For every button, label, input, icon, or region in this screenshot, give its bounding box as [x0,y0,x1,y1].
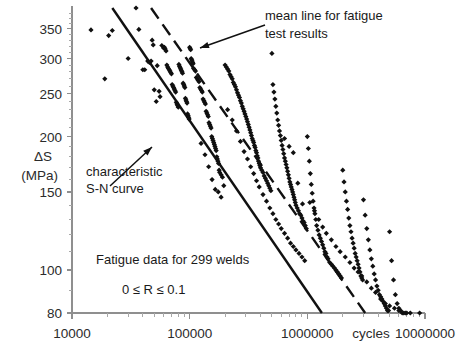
data-point [209,177,214,182]
data-point [281,151,286,156]
data-point [287,144,292,149]
data-point [391,277,396,282]
data-point [299,254,304,259]
data-point [361,197,366,202]
data-point [370,264,375,269]
y-tick-label: 200 [39,130,62,145]
data-point [241,149,246,154]
data-point [230,117,235,122]
data-point [157,94,162,99]
data-point [150,38,155,43]
data-point [269,51,274,56]
data-point [392,306,397,311]
data-point [315,228,320,233]
data-point [417,310,422,315]
data-point [270,211,275,216]
data-point [333,244,338,249]
data-point [88,27,93,32]
data-point [126,56,131,61]
data-point [155,63,160,68]
data-point [343,189,348,194]
data-point [367,247,372,252]
chart-svg: 8010015020025030035010000100000100000010… [0,0,459,350]
data-point [389,258,394,263]
data-point [133,5,138,10]
data-point [157,89,162,94]
data-point [245,156,250,161]
data-point [202,152,207,157]
data-point [264,199,269,204]
data-point [219,195,224,200]
data-point [152,87,157,92]
x-tick-label: 100000 [167,326,212,341]
data-point [387,229,392,234]
data-point [408,310,413,315]
data-point [316,217,321,222]
data-point [355,258,360,263]
data-point [395,301,400,306]
data-point [366,237,371,242]
data-point [154,99,159,104]
data-point [305,134,310,139]
sample-count-note: Fatigue data for 299 welds [96,252,250,267]
data-point [346,215,351,220]
mean-line-leader [200,25,265,48]
data-point [307,159,312,164]
data-point [276,123,281,128]
data-point [393,292,398,297]
data-point [151,42,156,47]
data-point [300,201,305,206]
data-point [374,283,379,288]
x-tick-label: 10000000 [395,326,455,341]
data-point [295,181,300,186]
data-point [306,146,311,151]
data-point [271,89,276,94]
data-point [351,241,356,246]
data-point [345,207,350,212]
data-point [248,164,253,169]
y-tick-label: 100 [39,263,62,278]
data-point [278,133,283,138]
mean-line-arrow-icon [200,42,210,48]
data-point [352,266,357,271]
data-point [347,260,352,265]
data-point [279,143,284,148]
data-point [364,226,369,231]
data-point [320,224,325,229]
data-point [225,107,230,112]
data-point [348,229,353,234]
y-tick-label: 350 [39,22,62,37]
characteristic-curve-annotation-line2: S-N curve [86,181,144,196]
data-point [110,28,115,33]
data-point [296,251,301,256]
data-point [329,237,334,242]
data-point [324,231,329,236]
data-point [285,236,290,241]
data-point [276,221,281,226]
data-point [136,27,141,32]
data-point [309,182,314,187]
data-point [260,192,265,197]
data-point [270,82,275,87]
y-tick-label: 150 [39,185,62,200]
data-point [106,33,111,38]
data-point [257,184,262,189]
y-tick-label: 80 [47,306,62,321]
data-point [272,96,277,101]
data-point [314,223,319,228]
data-point [279,226,284,231]
data-point [363,213,368,218]
y-tick-label: 300 [39,52,62,67]
characteristic-curve-annotation-line1: characteristic [86,164,163,179]
mean-line-annotation-line1: mean line for fatigue [265,8,383,23]
x-axis-label: cycles [352,326,390,341]
data-point [282,231,287,236]
data-point [352,246,357,251]
data-point [369,286,374,291]
data-point [373,277,378,282]
x-tick-label: 1000000 [281,326,334,341]
data-point [347,223,352,228]
data-point [254,178,259,183]
data-point [369,256,374,261]
data-point [349,236,354,241]
